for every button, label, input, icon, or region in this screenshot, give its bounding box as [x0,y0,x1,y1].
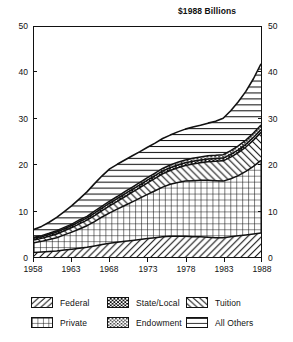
x-tick-1988: 1988 [242,265,282,274]
y-tick-left-10: 10 [6,208,28,217]
y-tick-right-30: 30 [268,115,290,124]
y-tick-right-0: 0 [268,254,290,263]
x-tick-1973: 1973 [128,265,168,274]
x-tick-1958: 1958 [13,265,53,274]
legend-item-state-local: State/Local [107,296,180,309]
legend-swatch-private [31,317,53,328]
y-tickmark-right-40 [258,71,262,72]
y-tickmark-right-10 [258,211,262,212]
y-tick-left-0: 0 [6,254,28,263]
y-tickmark-right-50 [258,26,262,27]
y-tick-right-20: 20 [268,161,290,170]
x-tickmark-1988 [261,258,262,262]
y-tick-left-20: 20 [6,161,28,170]
y-tick-right-50: 50 [268,22,290,31]
y-tickmark-left-10 [33,211,37,212]
legend-item-federal: Federal [31,296,90,309]
x-tickmark-1978 [186,258,187,262]
y-tick-right-10: 10 [268,208,290,217]
legend-swatch-state-local [107,297,129,308]
y-tickmark-left-30 [33,118,37,119]
legend-label-private: Private [60,318,87,328]
legend-label-federal: Federal [60,298,90,308]
y-tick-left-40: 40 [6,68,28,77]
x-tickmark-1963 [71,258,72,262]
x-tick-1983: 1983 [204,265,244,274]
y-tickmark-right-20 [258,164,262,165]
legend-item-all-others: All Others [186,316,253,329]
legend-label-endowment: Endowment [136,318,182,328]
y-tick-left-50: 50 [6,22,28,31]
chart-title: $1988 Billions [178,6,236,16]
x-tick-1968: 1968 [89,265,129,274]
x-tick-1978: 1978 [166,265,206,274]
y-tickmark-left-20 [33,164,37,165]
y-tickmark-left-50 [33,26,37,27]
legend-label-all-others: All Others [215,318,253,328]
legend-swatch-federal [31,297,53,308]
legend-label-tuition: Tuition [215,298,241,308]
legend-label-state-local: State/Local [136,298,180,308]
x-tick-1963: 1963 [51,265,91,274]
plot-area [33,26,262,258]
y-tickmark-right-30 [258,118,262,119]
legend-item-private: Private [31,316,87,329]
x-tickmark-1958 [33,258,34,262]
chart-figure: $1988 Billions [0,0,293,342]
legend-swatch-all-others [186,317,208,328]
y-tick-left-30: 30 [6,115,28,124]
legend-swatch-tuition [186,297,208,308]
legend-swatch-endowment [107,317,129,328]
x-tickmark-1983 [224,258,225,262]
legend-item-tuition: Tuition [186,296,241,309]
stacked-area-plot [34,27,261,257]
y-tickmark-left-40 [33,71,37,72]
x-tickmark-1973 [147,258,148,262]
chart-legend: Federal State/Local Tuition Private Endo [0,292,293,338]
y-tick-right-40: 40 [268,68,290,77]
legend-item-endowment: Endowment [107,316,182,329]
x-tickmark-1968 [109,258,110,262]
